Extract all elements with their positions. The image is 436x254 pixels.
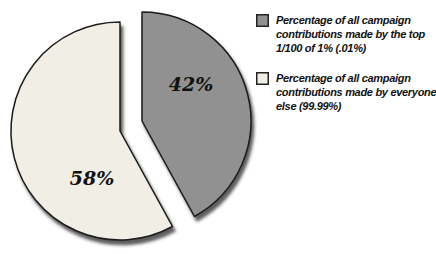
legend-line: Percentage of all campaign <box>276 71 436 85</box>
pie-slice-top-contributors <box>142 12 251 217</box>
legend-item-everyone-else: Percentage of all campaign contributions… <box>256 71 428 113</box>
legend-line: else (99.99%) <box>276 99 436 113</box>
slice-value-label-top-contributors: 42% <box>169 73 214 95</box>
legend-label-top-contributors: Percentage of all campaign contributions… <box>276 13 425 55</box>
legend-label-everyone-else: Percentage of all campaign contributions… <box>276 71 436 113</box>
legend-line: contributions made by everyone <box>276 85 436 99</box>
legend: Percentage of all campaign contributions… <box>256 13 428 113</box>
slice-value-label-everyone-else: 58% <box>70 167 115 189</box>
legend-line: Percentage of all campaign <box>276 13 425 27</box>
legend-swatch-everyone-else-icon <box>256 72 269 85</box>
legend-line: contributions made by the top <box>276 27 425 41</box>
legend-line: 1/100 of 1% (.01%) <box>276 41 425 55</box>
legend-swatch-top-contributors-icon <box>256 14 269 27</box>
legend-item-top-contributors: Percentage of all campaign contributions… <box>256 13 428 55</box>
